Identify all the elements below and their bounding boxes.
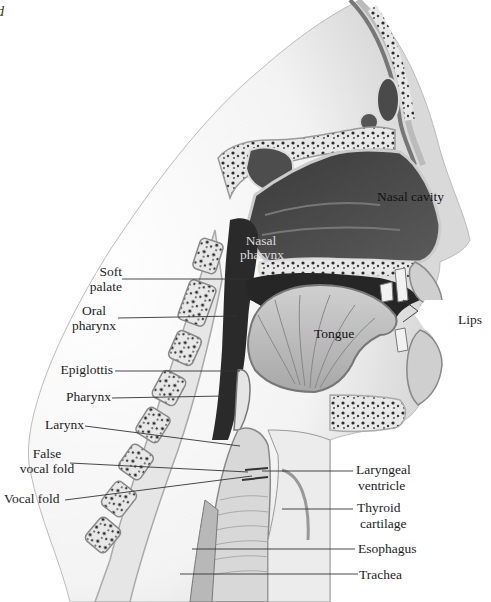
label-pharynx: Pharynx xyxy=(45,389,111,405)
label-thyroid-cartilage-line2: cartilage xyxy=(360,516,406,532)
label-vocal-fold: Vocal fold xyxy=(4,491,60,507)
label-tongue: Tongue xyxy=(314,326,354,342)
lower-lip xyxy=(407,330,442,405)
label-nasal-pharynx-line2: pharynx xyxy=(237,247,287,263)
label-soft-palate-line1: Soft xyxy=(78,264,122,280)
sagittal-head-neck-illustration xyxy=(0,0,491,602)
panel-letter: d xyxy=(0,4,4,20)
label-false-vocal-fold-line2: vocal fold xyxy=(14,461,80,477)
label-esophagus: Esophagus xyxy=(358,541,417,557)
label-oral-pharynx-line1: Oral xyxy=(64,303,124,319)
label-larynx: Larynx xyxy=(45,417,84,433)
label-oral-pharynx-line2: pharynx xyxy=(64,318,124,334)
label-nasal-cavity: Nasal cavity xyxy=(377,189,444,205)
label-epiglottis: Epiglottis xyxy=(40,362,113,378)
label-lips: Lips xyxy=(458,312,482,328)
anatomy-figure: d Nasal cavity Nasal pharynx Soft palate… xyxy=(0,0,491,602)
label-laryngeal-ventricle-line1: Laryngeal xyxy=(356,462,411,478)
label-soft-palate-line2: palate xyxy=(78,279,122,295)
label-trachea: Trachea xyxy=(359,567,402,583)
label-laryngeal-ventricle-line2: ventricle xyxy=(358,478,405,494)
label-thyroid-cartilage-line1: Thyroid xyxy=(357,500,401,516)
label-false-vocal-fold-line1: False xyxy=(14,446,80,462)
